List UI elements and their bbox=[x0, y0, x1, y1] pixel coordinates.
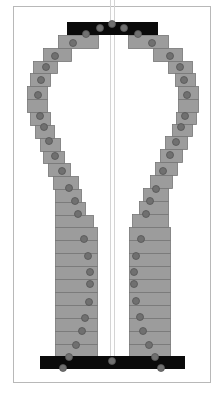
joint-dot-icon bbox=[167, 152, 174, 159]
joint-dot-icon bbox=[41, 124, 48, 131]
joint-dot-icon bbox=[86, 299, 93, 306]
chain-block bbox=[133, 215, 169, 228]
joint-dot-icon bbox=[87, 269, 94, 276]
chain-block bbox=[56, 228, 98, 241]
chain-block bbox=[156, 163, 178, 176]
joint-dot-icon bbox=[181, 77, 188, 84]
chain-block bbox=[179, 100, 199, 113]
joint-dot-icon bbox=[87, 281, 94, 288]
chain-block bbox=[59, 36, 99, 49]
joint-dot-icon bbox=[66, 185, 73, 192]
joint-dot-icon bbox=[173, 139, 180, 146]
joint-dot-icon bbox=[70, 40, 77, 47]
simulation-canvas bbox=[0, 0, 216, 393]
joint-dot-icon bbox=[52, 153, 59, 160]
joint-dot-icon bbox=[131, 281, 138, 288]
joint-dot-icon bbox=[184, 92, 191, 99]
joint-dot-icon bbox=[97, 25, 104, 32]
joint-dot-icon bbox=[149, 40, 156, 47]
joint-dot-icon bbox=[43, 64, 50, 71]
joint-dot-icon bbox=[121, 25, 128, 32]
joint-dot-icon bbox=[81, 236, 88, 243]
joint-dot-icon bbox=[35, 92, 42, 99]
chain-block bbox=[56, 216, 94, 228]
joint-dot-icon bbox=[60, 365, 67, 372]
left-block-chain bbox=[28, 36, 99, 357]
center-guide-lines bbox=[111, 0, 115, 356]
joint-dot-icon bbox=[109, 358, 116, 365]
joint-dot-icon bbox=[37, 113, 44, 120]
chain-block bbox=[130, 306, 171, 319]
joint-dot-icon bbox=[79, 328, 86, 335]
joint-dot-icon bbox=[52, 53, 59, 60]
joint-dot-icon bbox=[146, 342, 153, 349]
joint-dot-icon bbox=[167, 53, 174, 60]
chain-block bbox=[130, 228, 171, 241]
joint-dot-icon bbox=[135, 31, 142, 38]
chain-block bbox=[28, 100, 48, 113]
joint-dot-icon bbox=[153, 186, 160, 193]
joint-dot-icon bbox=[66, 354, 73, 361]
joint-dot-icon bbox=[160, 168, 167, 175]
joint-dot-icon bbox=[138, 236, 145, 243]
joint-dot-icon bbox=[38, 77, 45, 84]
joint-dot-icon bbox=[85, 253, 92, 260]
joint-dot-icon bbox=[73, 342, 80, 349]
joint-dot-icon bbox=[178, 124, 185, 131]
joint-dot-icon bbox=[140, 328, 147, 335]
joint-dot-icon bbox=[75, 211, 82, 218]
joint-dot-icon bbox=[177, 64, 184, 71]
joint-dot-icon bbox=[133, 253, 140, 260]
joint-dot-icon bbox=[83, 31, 90, 38]
joint-dot-icon bbox=[137, 314, 144, 321]
joint-dot-icon bbox=[46, 138, 53, 145]
right-block-chain bbox=[129, 36, 199, 357]
chain-block bbox=[56, 241, 98, 254]
joint-dot-icon bbox=[152, 354, 159, 361]
joint-dot-icon bbox=[82, 315, 89, 322]
joint-dot-icon bbox=[131, 269, 138, 276]
chain-block bbox=[130, 319, 171, 332]
joint-dot-icon bbox=[158, 365, 165, 372]
joint-dot-icon bbox=[143, 211, 150, 218]
chain-block bbox=[130, 241, 171, 254]
chain-block bbox=[56, 319, 98, 332]
joint-dot-icon bbox=[72, 198, 79, 205]
chain-block bbox=[56, 306, 98, 319]
joint-dot-icon bbox=[59, 168, 66, 175]
joint-dot-icon bbox=[182, 113, 189, 120]
joint-dot-icon bbox=[147, 198, 154, 205]
joint-dot-icon bbox=[109, 21, 116, 28]
joint-dot-icon bbox=[133, 298, 140, 305]
